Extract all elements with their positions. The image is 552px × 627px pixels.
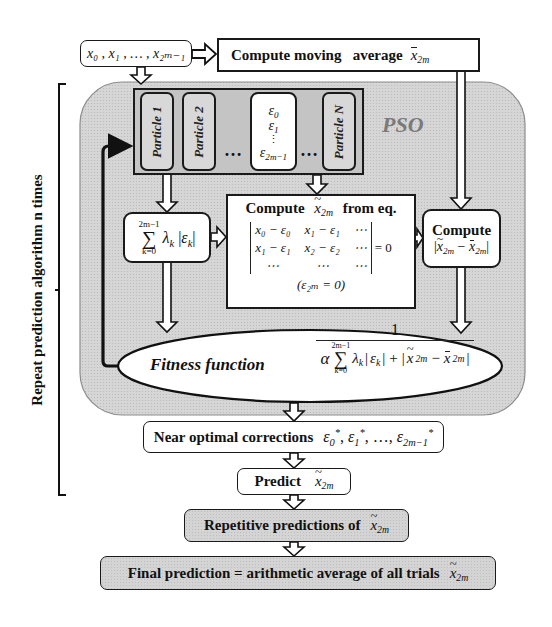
particle-dots-right: …	[300, 140, 318, 161]
near-optimal-label: Near optimal corrections	[154, 429, 313, 446]
sigma-icon: ∑	[142, 229, 156, 247]
repeat-bracket	[59, 84, 66, 495]
equation-note: (ε₂ₘ = 0)	[297, 277, 345, 293]
repeat-bracket-label: Repeat prediction algorithm n times	[29, 174, 46, 405]
repetitive-label: Repetitive predictions of	[204, 517, 360, 534]
determinant-equation-box: Compute x2m from eq. x₀ − ε₀x₁ − ε₁⋯ x₁ …	[226, 194, 416, 309]
weighted-sum-box: 2m−1 ∑ k=0 λk |εk|	[123, 212, 211, 263]
input-series-label: x₀ , x₁ , … , x₂ₘ₋₁	[87, 45, 185, 62]
pso-label: PSO	[382, 112, 424, 138]
input-series-box: x₀ , x₁ , … , x₂ₘ₋₁	[80, 40, 192, 67]
sum-body: λk |εk|	[163, 229, 196, 247]
repetitive-symbol: x2m	[370, 517, 389, 534]
particle-1: Particle 1	[140, 92, 174, 171]
near-optimal-expr: ε0*, ε1*, …, ε2m−1*	[323, 428, 433, 446]
final-label: Final prediction = arithmetic average of…	[128, 565, 440, 582]
final-prediction-box: Final prediction = arithmetic average of…	[100, 556, 496, 590]
particle-2: Particle 2	[182, 92, 216, 171]
compute-difference-expr: |x2m − x2m|	[434, 239, 489, 255]
predict-label: Predict	[255, 473, 301, 490]
repetitive-predictions-box: Repetitive predictions of x2m	[184, 509, 409, 542]
moving-average-label: Compute moving average	[231, 47, 403, 64]
final-symbol: x2m	[450, 565, 469, 582]
fitness-numerator: 1	[391, 322, 399, 338]
arrow-repetitive-to-final	[284, 542, 304, 556]
near-optimal-corrections-box: Near optimal corrections ε0*, ε1*, …, ε2…	[143, 421, 444, 453]
epsilon-vector: ε0 ε1 ⋮ ε2m−1	[250, 92, 297, 171]
compute-difference-box: Compute |x2m − x2m|	[422, 209, 501, 268]
fitness-formula: 1 α 2m−1 ∑ k=0 λk |εk| + |x2m − x2m|	[300, 322, 490, 375]
arrow-predict-to-repetitive	[284, 495, 304, 509]
sum-lower-limit: k=0	[142, 247, 156, 256]
arrow-near-optimal-to-predict	[284, 453, 304, 468]
equation-title: Compute x2m from eq.	[245, 200, 396, 217]
determinant-matrix: x₀ − ε₀x₁ − ε₁⋯ x₁ − ε₁x₂ − ε₂⋯ ⋯⋯⋯	[250, 222, 371, 274]
moving-average-symbol: x2m	[411, 47, 430, 64]
predict-box: Predict x2m	[237, 468, 351, 495]
moving-average-box: Compute moving average x2m	[217, 38, 480, 72]
fitness-function-label: Fitness function	[150, 355, 265, 375]
particle-dots-left: …	[224, 140, 242, 161]
determinant-equals: = 0	[375, 240, 392, 256]
predict-symbol: x2m	[315, 473, 334, 490]
arrow-input-to-average	[192, 44, 216, 64]
particle-n: Particle N	[322, 92, 356, 171]
